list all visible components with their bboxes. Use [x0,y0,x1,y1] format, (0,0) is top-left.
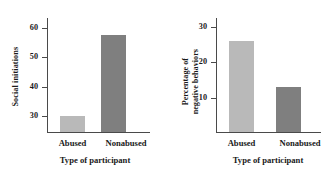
y-tick-30-right [211,27,217,28]
x-label-nonabused-left: Nonabused [88,139,164,148]
y-tick-label-10-right: 10 [185,94,207,102]
bar-left-nonabused [101,35,126,132]
x-label-abused-right: Abused [216,139,267,148]
y-tick-label-60-left: 60 [16,24,38,32]
chart-panel-negative-behaviors: Percentage of negative behaviors 30 20 1… [166,0,332,173]
y-tick-label-40-left: 40 [16,83,38,91]
plot-area-left: 60 50 40 30 Abused Nonabused Type of par… [0,0,166,173]
y-tick-20-right [211,62,217,63]
x-axis-title-right: Type of participant [200,156,332,165]
bar-left-abused [60,116,85,132]
y-tick-10-right [211,98,217,99]
y-tick-40-left [42,87,48,88]
y-tick-label-30-right: 30 [185,23,207,31]
y-tick-label-50-left: 50 [16,53,38,61]
y-tick-label-30-left: 30 [16,112,38,120]
bar-right-nonabused [276,87,301,132]
x-axis-line-right [216,132,321,133]
x-axis-title-left: Type of participant [27,156,163,165]
y-tick-60-left [42,28,48,29]
y-axis-line-right [216,18,217,133]
y-tick-30-left [42,116,48,117]
bar-right-abused [229,41,254,132]
chart-panel-social-initiations: Social initiations 60 50 40 30 Abused No… [0,0,166,173]
figure-two-bar-charts: Social initiations 60 50 40 30 Abused No… [0,0,332,173]
y-tick-50-left [42,57,48,58]
x-label-nonabused-right: Nonabused [262,139,332,148]
plot-area-right: 30 20 10 Abused Nonabused Type of partic… [166,0,332,173]
x-axis-line-left [47,132,150,133]
y-tick-label-20-right: 20 [185,58,207,66]
